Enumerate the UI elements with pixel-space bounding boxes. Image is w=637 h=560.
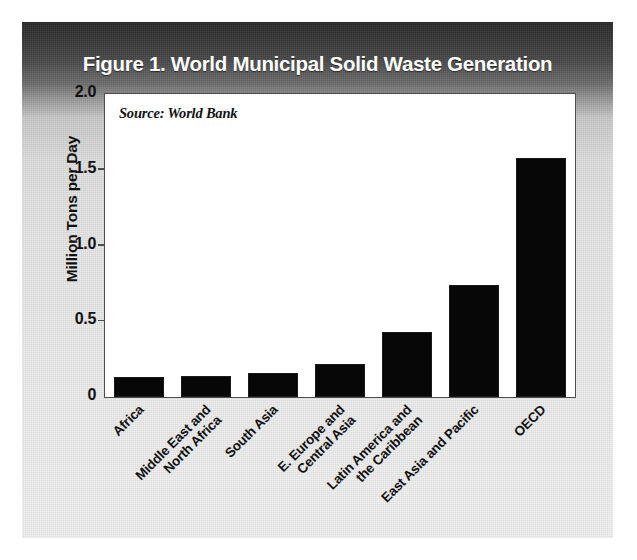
figure-root: Figure 1. World Municipal Solid Waste Ge… bbox=[0, 0, 637, 560]
y-tick-label: 1.0 bbox=[56, 235, 96, 253]
bar bbox=[248, 373, 298, 397]
y-tick-label: 0 bbox=[56, 386, 96, 404]
figure-panel: Figure 1. World Municipal Solid Waste Ge… bbox=[22, 22, 613, 538]
x-tick-label-line: Middle East and bbox=[61, 402, 213, 554]
bar bbox=[114, 377, 164, 397]
y-tick-label: 0.5 bbox=[56, 310, 96, 328]
bar bbox=[449, 285, 499, 397]
bar bbox=[315, 364, 365, 397]
y-tick-label: 1.5 bbox=[56, 159, 96, 177]
bars-layer bbox=[105, 94, 575, 397]
bar bbox=[382, 332, 432, 397]
page-title: Figure 1. World Municipal Solid Waste Ge… bbox=[22, 52, 613, 76]
bar bbox=[181, 376, 231, 397]
plot-area: Source: World Bank bbox=[104, 93, 576, 398]
y-axis-title: Million Tons per Day bbox=[63, 99, 81, 319]
y-tick-label: 2.0 bbox=[56, 83, 96, 101]
bar bbox=[516, 158, 566, 397]
